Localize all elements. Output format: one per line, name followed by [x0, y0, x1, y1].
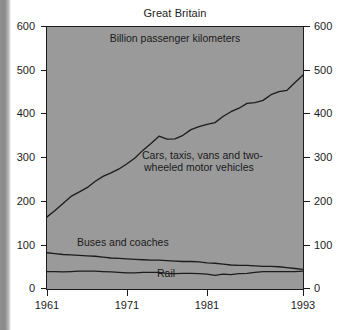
y-label-right-400: 400 [314, 108, 348, 119]
y-label-left-600: 600 [5, 21, 35, 32]
annotation-subtitle: Billion passenger kilometers [47, 32, 303, 44]
y-axis-right [303, 27, 304, 290]
x-axis [47, 289, 304, 290]
x-tick-1993 [303, 290, 304, 296]
y-tick-left-100 [41, 245, 47, 246]
y-tick-right-100 [304, 245, 310, 246]
y-axis-left [46, 27, 47, 290]
y-tick-left-500 [41, 70, 47, 71]
y-label-left-300: 300 [5, 152, 35, 163]
y-tick-right-400 [304, 113, 310, 114]
annotation-cars-line1: Cars, taxis, vans and two- [142, 149, 263, 161]
x-label-1993: 1993 [282, 300, 324, 311]
annotation-buses: Buses and coaches [77, 236, 169, 248]
y-label-left-200: 200 [5, 196, 35, 207]
y-label-right-600: 600 [314, 21, 348, 32]
y-label-left-100: 100 [5, 240, 35, 251]
x-label-1971: 1971 [106, 300, 148, 311]
y-tick-left-400 [41, 113, 47, 114]
x-tick-1961 [47, 290, 48, 296]
y-label-right-100: 100 [314, 240, 348, 251]
annotation-cars-line2: wheeled motor vehicles [144, 161, 254, 173]
y-label-left-0: 0 [5, 283, 35, 294]
y-tick-right-200 [304, 201, 310, 202]
chart-title: Great Britain [47, 7, 303, 19]
y-tick-right-500 [304, 70, 310, 71]
scan-edge-artifact [0, 0, 11, 330]
x-tick-1971 [127, 290, 128, 296]
y-tick-right-600 [304, 26, 310, 27]
y-tick-right-0 [304, 288, 310, 289]
plot-area: Billion passenger kilometers Cars, taxis… [47, 27, 303, 289]
y-label-left-500: 500 [5, 65, 35, 76]
chart-figure: Great Britain Billion passenger kilomete… [0, 0, 351, 330]
y-tick-left-200 [41, 201, 47, 202]
y-tick-left-600 [41, 26, 47, 27]
x-tick-1981 [207, 290, 208, 296]
y-label-left-400: 400 [5, 108, 35, 119]
annotation-rail: Rail [157, 267, 175, 279]
y-label-right-0: 0 [314, 283, 348, 294]
y-tick-right-300 [304, 157, 310, 158]
line-cars-taxis-vans [47, 75, 303, 217]
x-label-1981: 1981 [186, 300, 228, 311]
y-label-right-200: 200 [314, 196, 348, 207]
x-label-1961: 1961 [26, 300, 68, 311]
y-tick-left-300 [41, 157, 47, 158]
plot-top-border [47, 26, 304, 27]
y-label-right-300: 300 [314, 152, 348, 163]
y-label-right-500: 500 [314, 65, 348, 76]
